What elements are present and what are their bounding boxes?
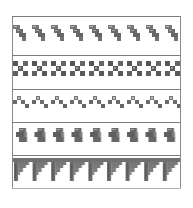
fringe-pattern-icon [13,158,180,188]
fret-pattern-icon [13,126,180,148]
divider-top [12,16,181,17]
checker-pattern-icon [13,59,180,79]
staircase-pattern-icon [13,22,180,48]
divider-2 [12,89,181,90]
band-checkered-cross [13,59,180,79]
band-diagonal-staircase [13,22,180,48]
zigzag-pattern-icon [13,93,180,113]
band-stepped-fringe [13,158,180,188]
band-hooked-fret [13,126,180,148]
divider-bottom [12,188,181,189]
band-zigzag-steps [13,93,180,113]
divider-1 [12,55,181,56]
divider-3 [12,122,181,123]
divider-4 [12,155,181,156]
figure-description: Five decorative geometric border pattern… [0,0,1,1]
